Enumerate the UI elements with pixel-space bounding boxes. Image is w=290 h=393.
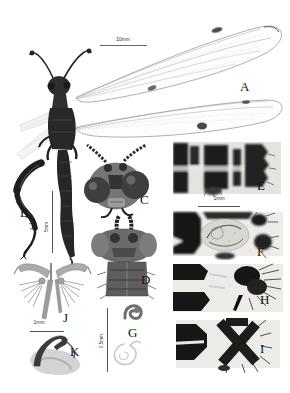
scale-bar-spermatheca-text: 0.5mm [100,334,105,348]
abdomen-apex-lateral-photo [173,262,287,314]
panel-label-j: J [63,311,68,324]
scale-bar-terminalia [198,206,240,207]
scale-bar-gonarcus-text: 1mm [24,320,54,325]
scale-bar-wing [100,45,147,46]
forewing-pterostigma [211,26,223,34]
left-eye [91,233,109,257]
male-terminalia-photo [173,208,287,260]
hindwing [76,100,282,137]
panel-label-e: E [257,179,265,192]
left-eye [84,177,110,203]
panel-label-c: C [140,193,149,206]
scale-bar-wing-text: 10mm [108,37,138,42]
wings-photo [68,14,290,154]
scale-bar-terminalia-text: 1mm [204,196,234,201]
panel-label-b: B [20,206,29,219]
forewing [76,26,282,102]
panel-label-g: G [128,326,137,339]
panel-label-i: I [260,342,264,355]
panel-label-k: K [70,345,79,358]
gonarcus-drawing [12,258,92,326]
paramere-drawing [22,330,92,378]
abdomen-apex-dorsal-photo [176,316,288,374]
abdomen [57,150,75,264]
scale-bar-leg-text: 5mm [45,222,50,232]
hindwing-spot [197,123,207,130]
scale-bar-leg [52,191,53,253]
abdomen-segments-photo [173,140,287,198]
panel-label-h: H [260,293,269,306]
foreleg-photo [12,158,56,262]
panel-label-d: D [141,273,150,286]
right-eye [139,233,157,257]
panel-label-a: A [240,80,249,93]
antennae [87,145,146,162]
scale-bar-spermatheca [107,308,108,372]
figure-plate: 1mm [0,0,290,393]
head-pronotum-photo [84,214,164,300]
panel-label-f: F [257,245,264,258]
